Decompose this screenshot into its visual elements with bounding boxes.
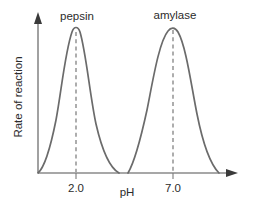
x-tick-label-2: 2.0 bbox=[68, 182, 84, 194]
series-label-pepsin: pepsin bbox=[60, 10, 94, 22]
series-label-amylase: amylase bbox=[154, 9, 197, 21]
x-axis-arrow-icon bbox=[226, 169, 238, 177]
curve-amylase bbox=[128, 28, 219, 173]
curve-pepsin bbox=[38, 28, 119, 174]
x-axis-title: pH bbox=[120, 186, 135, 198]
y-axis-arrow-icon bbox=[34, 12, 42, 24]
enzyme-ph-rate-chart: pepsin amylase 2.0 7.0 pH Rate of reacti… bbox=[0, 0, 257, 203]
y-axis-title: Rate of reaction bbox=[12, 56, 24, 137]
x-tick-label-7: 7.0 bbox=[165, 182, 181, 194]
chart-svg-canvas: pepsin amylase 2.0 7.0 pH Rate of reacti… bbox=[0, 0, 257, 203]
